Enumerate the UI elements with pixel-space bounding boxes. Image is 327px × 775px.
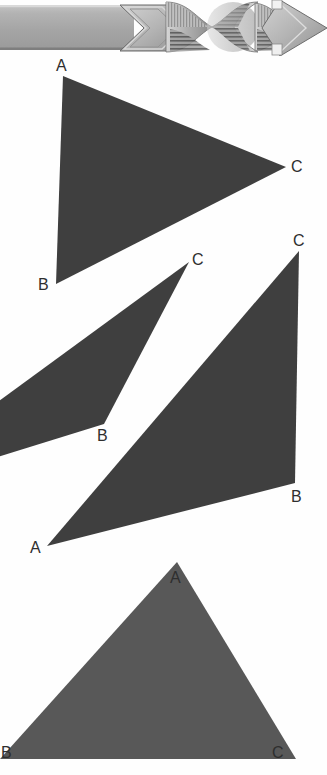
triangles-canvas — [0, 0, 327, 775]
vertex-label-triangle-3-a: A — [30, 540, 41, 556]
triangle-bottom — [0, 562, 296, 759]
vertex-label-triangle-4-c: C — [272, 745, 284, 761]
vertex-label-triangle-1-a: A — [56, 58, 67, 74]
vertex-label-triangle-3-c: C — [293, 233, 305, 249]
vertex-label-triangle-1-c: C — [291, 159, 303, 175]
vertex-label-triangle-2-c: C — [192, 252, 204, 268]
figure-page: ABCCBCBAABC — [0, 0, 327, 775]
vertex-label-triangle-2-b: B — [97, 428, 108, 444]
vertex-label-triangle-4-b: B — [1, 745, 12, 761]
triangle-top — [56, 76, 286, 284]
triangle-figures — [0, 0, 327, 775]
vertex-label-triangle-3-b: B — [291, 489, 302, 505]
vertex-label-triangle-1-b: B — [38, 277, 49, 293]
vertex-label-triangle-4-a: A — [170, 570, 181, 586]
